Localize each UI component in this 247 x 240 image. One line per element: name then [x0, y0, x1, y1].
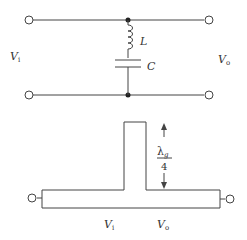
circuit-output-label: Vo: [218, 53, 230, 67]
terminal-top-right: [205, 16, 213, 24]
terminal-bottom-right: [205, 91, 213, 99]
inductor-coil: [128, 20, 133, 58]
circuit-input-label: Vi: [10, 50, 21, 64]
lc-circuit: [25, 16, 213, 99]
port-left: [28, 194, 36, 202]
inductor-label: L: [139, 35, 147, 48]
stub-output-label: Vo: [157, 218, 169, 232]
diagram: L C Vi Vo λg 4 Vi Vo: [0, 0, 247, 240]
length-denominator: 4: [161, 161, 167, 172]
microstrip-outline: [42, 122, 220, 208]
arrowhead-up: [161, 123, 167, 130]
length-numerator: λg: [157, 145, 169, 159]
arrowhead-down: [161, 182, 167, 189]
capacitor-label: C: [147, 60, 156, 73]
stub-input-label: Vi: [104, 218, 115, 232]
stub-line: [28, 122, 234, 208]
terminal-bottom-left: [25, 91, 33, 99]
port-right: [226, 195, 234, 203]
terminal-top-left: [25, 16, 33, 24]
